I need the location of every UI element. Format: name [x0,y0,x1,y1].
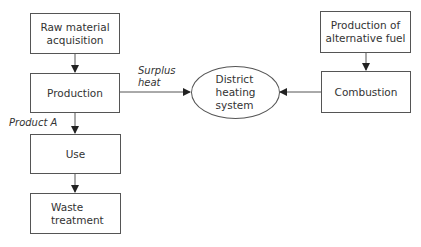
node-label: Combustion [335,86,398,99]
node-label: Raw material acquisition [40,21,109,47]
node-production: Production [30,73,120,113]
node-label: Production [47,87,103,100]
node-label: Use [66,148,86,161]
node-raw-material-acquisition: Raw material acquisition [30,13,120,54]
node-label: Waste treatment [51,201,104,227]
edge-label-surplus-heat: Surplus heat [138,65,175,89]
node-combustion: Combustion [321,71,411,113]
node-district-heating-system: District heating system [191,66,280,119]
edge-label-product-a: Product A [9,117,57,129]
node-label: Production of alternative fuel [326,19,406,45]
node-label: District heating system [216,73,256,112]
node-production-of-alternative-fuel: Production of alternative fuel [320,11,411,53]
node-waste-treatment: Waste treatment [30,193,121,234]
node-use: Use [30,134,121,174]
